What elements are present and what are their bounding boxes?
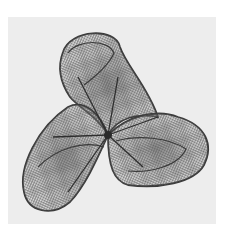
mesh-sculpture: [8, 17, 216, 224]
lobe-left: [23, 105, 108, 211]
center-hub: [104, 131, 112, 139]
photo: [8, 17, 216, 224]
lobe-right: [108, 114, 208, 187]
